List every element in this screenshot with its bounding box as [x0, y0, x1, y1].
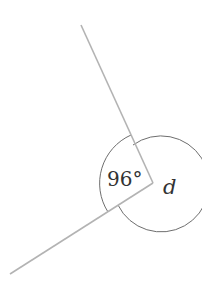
angle-label-d: d: [163, 175, 176, 199]
upper-ray: [81, 25, 153, 183]
lower-ray: [10, 183, 153, 274]
angle-label-96: 96°: [107, 167, 142, 191]
angle-diagram: 96° d: [0, 0, 202, 287]
